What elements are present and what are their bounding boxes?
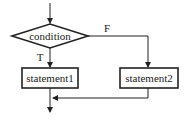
decision-label: condition [29,30,71,42]
true-label: T [37,51,44,63]
false-arrow [88,36,148,67]
flowchart: condition T F statement1 statement2 [0,0,187,121]
flowchart-canvas: condition T F statement1 statement2 [0,0,187,121]
merge-arrow [53,88,148,98]
statement1-label: statement1 [26,72,74,84]
statement2-label: statement2 [125,72,173,84]
false-label: F [104,22,110,34]
